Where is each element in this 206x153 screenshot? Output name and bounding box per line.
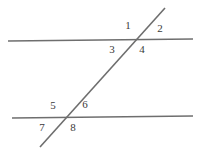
angle-label-6: 6 [82,99,88,110]
angle-label-4: 4 [139,44,145,55]
upper-parallel-line [8,39,193,41]
line-group [8,8,193,147]
angle-label-7: 7 [39,122,45,133]
angle-label-2: 2 [157,23,163,34]
figure-canvas [0,0,206,153]
angle-label-3: 3 [109,44,115,55]
geometry-figure: 12345678 [0,0,206,153]
transversal-line [40,8,165,147]
lower-parallel-line [12,116,193,118]
angle-label-5: 5 [50,100,56,111]
angle-label-1: 1 [125,20,131,31]
angle-label-8: 8 [70,122,76,133]
